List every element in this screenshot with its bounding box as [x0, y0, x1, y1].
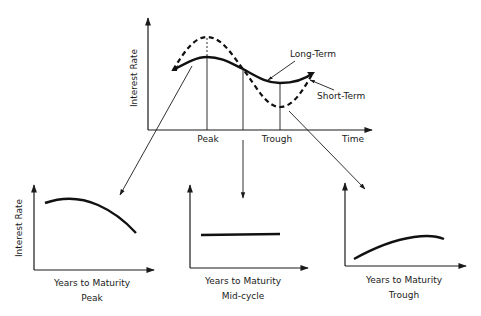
panel-trough-caption: Trough: [388, 290, 419, 300]
panel-midcycle: Years to Maturity Mid-cycle: [190, 185, 308, 301]
trough-marker-label: Trough: [261, 134, 292, 144]
panel-peak-y-label: Interest Rate: [14, 198, 24, 257]
short-term-pointer: [310, 80, 334, 90]
main-chart: Interest Rate Peak Trough Time Long-Term…: [129, 18, 372, 144]
long-term-pointer: [268, 61, 295, 80]
trough-connector-arrow: [289, 111, 365, 189]
long-term-label: Long-Term: [290, 49, 336, 59]
short-term-label: Short-Term: [317, 91, 365, 101]
panel-peak: Interest Rate Years to Maturity Peak: [14, 185, 154, 303]
panel-trough-x-label: Years to Maturity: [365, 275, 443, 285]
inverted-yield-curve: [45, 199, 136, 233]
main-y-axis-label: Interest Rate: [129, 48, 139, 107]
panel-peak-x-label: Years to Maturity: [53, 278, 131, 288]
normal-yield-curve: [354, 236, 444, 259]
peak-marker-label: Peak: [197, 134, 219, 144]
panel-mid-caption: Mid-cycle: [222, 291, 265, 301]
yield-curve-cycle-diagram: Interest Rate Peak Trough Time Long-Term…: [0, 0, 481, 316]
main-x-axis-label: Time: [341, 134, 364, 144]
panel-peak-caption: Peak: [81, 293, 103, 303]
panel-mid-x-label: Years to Maturity: [204, 276, 282, 286]
panel-trough: Years to Maturity Trough: [345, 183, 466, 300]
flat-yield-curve: [201, 234, 280, 235]
